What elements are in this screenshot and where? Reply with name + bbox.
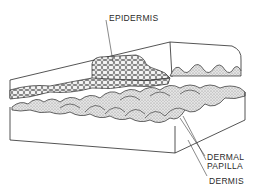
dermis-leader bbox=[188, 140, 207, 176]
epidermis-cell-block bbox=[92, 55, 170, 82]
epidermal-ridges-right bbox=[170, 64, 241, 76]
epidermis-leader bbox=[106, 20, 113, 62]
skin-diagram: EPIDERMIS DERMAL PAPILLA DERMIS bbox=[0, 0, 253, 193]
dermis-label: DERMIS bbox=[209, 177, 244, 186]
dermal-papilla-leader-2 bbox=[183, 116, 206, 160]
dermal-papilla-label-line2: PAPILLA bbox=[207, 162, 243, 171]
epidermis-label: EPIDERMIS bbox=[109, 14, 158, 23]
